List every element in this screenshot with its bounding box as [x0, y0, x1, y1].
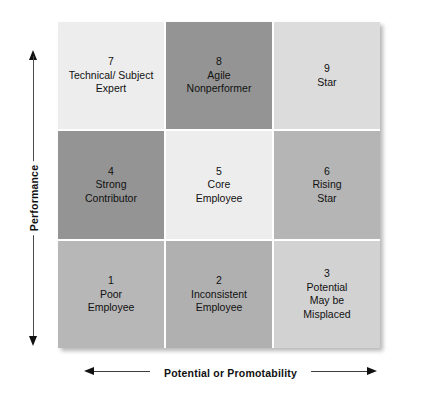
potential-axis-line-right — [311, 371, 367, 372]
grid-cell-label-line: May be — [310, 294, 344, 308]
grid-cell-label-line: Contributor — [85, 192, 137, 206]
grid-cell-label-line: Star — [317, 192, 336, 206]
arrow-down-icon — [29, 336, 37, 346]
grid-cell-label-line: Rising — [312, 178, 341, 192]
grid-cell-3[interactable]: 3PotentialMay beMisplaced — [274, 241, 380, 348]
grid-cell-4[interactable]: 4StrongContributor — [58, 131, 164, 238]
grid-cell-number: 7 — [108, 55, 114, 69]
grid-cell-label-line: Core — [208, 178, 231, 192]
potential-axis-line-left — [94, 371, 150, 372]
grid-cell-label-line: Employee — [88, 301, 135, 315]
nine-box-grid: 7Technical/ SubjectExpert8AgileNonperfor… — [58, 22, 380, 348]
grid-cell-label-line: Star — [317, 76, 336, 90]
grid-cell-label-line: Technical/ Subject — [69, 69, 154, 83]
grid-cell-number: 4 — [108, 165, 114, 179]
arrow-left-icon — [84, 367, 94, 375]
potential-axis-label: Potential or Promotability — [155, 367, 306, 379]
potential-axis: Potential or Promotability — [84, 363, 377, 383]
grid-cell-8[interactable]: 8AgileNonperformer — [166, 22, 272, 129]
grid-cell-label-line: Employee — [196, 301, 243, 315]
grid-cell-1[interactable]: 1PoorEmployee — [58, 241, 164, 348]
grid-cell-label-line: Inconsistent — [191, 288, 247, 302]
grid-cell-number: 6 — [324, 165, 330, 179]
performance-axis: Performance — [22, 50, 46, 346]
grid-cell-number: 1 — [108, 274, 114, 288]
grid-cell-label-line: Potential — [307, 281, 348, 295]
grid-cell-label-line: Agile — [207, 69, 230, 83]
grid-cell-number: 9 — [324, 62, 330, 76]
grid-cell-7[interactable]: 7Technical/ SubjectExpert — [58, 22, 164, 129]
grid-cell-label-line: Employee — [196, 192, 243, 206]
grid-cell-label-line: Expert — [96, 82, 126, 96]
grid-cell-number: 2 — [216, 274, 222, 288]
grid-cell-number: 3 — [324, 267, 330, 281]
grid-cell-label-line: Strong — [96, 178, 127, 192]
arrow-right-icon — [367, 367, 377, 375]
grid-cell-2[interactable]: 2InconsistentEmployee — [166, 241, 272, 348]
grid-cell-9[interactable]: 9Star — [274, 22, 380, 129]
grid-cell-number: 5 — [216, 165, 222, 179]
grid-cell-6[interactable]: 6RisingStar — [274, 131, 380, 238]
grid-cell-label-line: Nonperformer — [187, 82, 252, 96]
grid-cell-5[interactable]: 5CoreEmployee — [166, 131, 272, 238]
grid-cell-number: 8 — [216, 55, 222, 69]
grid-cell-label-line: Poor — [100, 288, 122, 302]
grid-cell-label-line: Misplaced — [303, 308, 350, 322]
performance-axis-label: Performance — [23, 161, 45, 235]
